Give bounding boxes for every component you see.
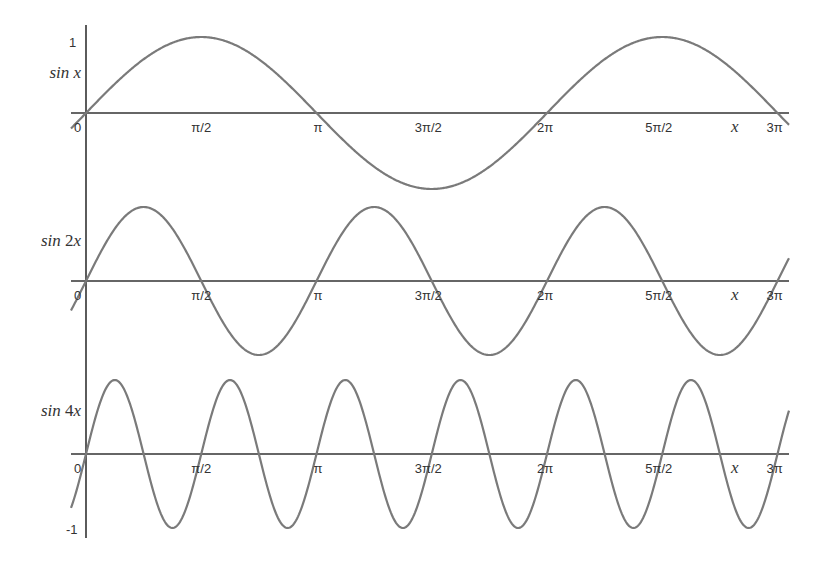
sine-waves-chart: 1 -1 0π/2π3π/22π5π/23πxsin x 0π/2π3π/22π… — [0, 0, 824, 564]
x-tick-label: π/2 — [191, 120, 211, 135]
function-label: sin 4x — [41, 401, 82, 420]
x-tick-label: π — [314, 120, 323, 135]
x-tick-label: π/2 — [191, 461, 211, 476]
panel-sin-x: 0π/2π3π/22π5π/23πxsin x — [49, 37, 789, 189]
x-tick-label: 0 — [74, 288, 81, 303]
x-tick-label: 5π/2 — [645, 461, 672, 476]
x-tick-label: 5π/2 — [645, 288, 672, 303]
x-tick-label: π — [314, 288, 323, 303]
y-tick-minus-1: -1 — [66, 522, 78, 537]
x-tick-label: 3π/2 — [415, 461, 442, 476]
x-tick-label: 3π — [767, 288, 783, 303]
x-tick-label: 0 — [74, 461, 81, 476]
x-tick-label: 0 — [74, 120, 81, 135]
x-tick-label: 3π — [767, 461, 783, 476]
x-tick-label: π/2 — [191, 288, 211, 303]
function-label: sin 2x — [41, 231, 82, 250]
x-variable-label: x — [730, 285, 739, 304]
panel-sin-2x: 0π/2π3π/22π5π/23πxsin 2x — [41, 207, 789, 355]
x-tick-label: 3π — [767, 120, 783, 135]
x-variable-label: x — [730, 458, 739, 477]
panel-sin-4x: 0π/2π3π/22π5π/23πxsin 4x — [41, 380, 789, 528]
x-variable-label: x — [730, 117, 739, 136]
x-tick-label: 2π — [537, 120, 553, 135]
y-tick-1: 1 — [69, 35, 76, 50]
x-tick-label: 2π — [537, 288, 553, 303]
x-tick-label: 3π/2 — [415, 120, 442, 135]
x-tick-label: 3π/2 — [415, 288, 442, 303]
x-tick-label: π — [314, 461, 323, 476]
x-tick-label: 2π — [537, 461, 553, 476]
function-label: sin x — [49, 63, 81, 82]
x-tick-label: 5π/2 — [645, 120, 672, 135]
